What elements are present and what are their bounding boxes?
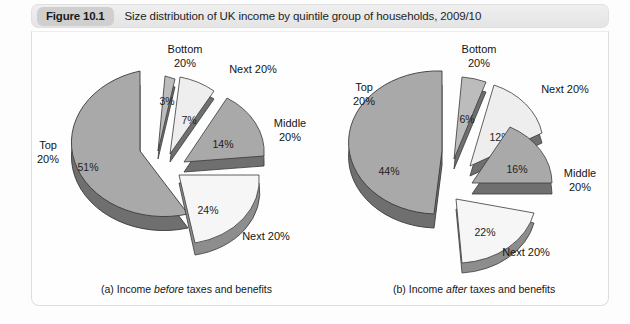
- label-middle-20-b-line2: 20%: [569, 181, 591, 193]
- label-bottom-20-b-line1: Bottom: [462, 43, 497, 55]
- pie-chart-after-taxes: 44% 6% 12% 16%: [312, 31, 630, 281]
- figure-header-bar: Figure 10.1 Size distribution of UK inco…: [31, 4, 609, 28]
- caption-b-emphasis: after: [446, 283, 467, 295]
- chart-caption-a: (a) Income before taxes and benefits: [101, 283, 272, 295]
- slice-next-20-lower-b: 22%: [456, 199, 534, 273]
- figure-number-badge: Figure 10.1: [37, 7, 114, 26]
- slice-value-bottom-20-b: 6%: [459, 113, 474, 125]
- label-next-20-upper-a: Next 20%: [229, 63, 277, 75]
- chart-caption-b: (b) Income after taxes and benefits: [393, 283, 555, 295]
- label-top-20-a-line2: 20%: [37, 153, 59, 165]
- caption-a-post: taxes and benefits: [184, 283, 272, 295]
- label-bottom-20-a-line1: Bottom: [168, 43, 203, 55]
- figure-panel: Figure 10.1 Size distribution of UK inco…: [0, 0, 630, 324]
- slice-value-middle-20-b: 16%: [506, 163, 527, 175]
- label-middle-20-b-line1: Middle: [564, 167, 596, 179]
- label-bottom-20-a-line2: 20%: [174, 57, 196, 69]
- page-bleed-text: [0, 314, 630, 324]
- label-top-20-a-line1: Top: [39, 139, 57, 151]
- slice-value-next-20-upper-a: 7%: [181, 114, 196, 126]
- caption-b-post: taxes and benefits: [467, 283, 555, 295]
- label-next-20-upper-b: Next 20%: [541, 83, 589, 95]
- slice-value-next-20-lower-a: 24%: [197, 204, 218, 216]
- caption-a-pre: (a) Income: [101, 283, 154, 295]
- label-top-20-b-line1: Top: [355, 81, 373, 93]
- caption-a-emphasis: before: [154, 283, 184, 295]
- slice-value-top-20-a: 51%: [77, 161, 98, 173]
- label-top-20-b-line2: 20%: [353, 95, 375, 107]
- pie-chart-before-taxes: 51% 3% 7% 14%: [18, 31, 318, 281]
- figure-title: Size distribution of UK income by quinti…: [125, 10, 482, 22]
- label-next-20-lower-a: Next 20%: [242, 230, 290, 242]
- label-bottom-20-b-line2: 20%: [468, 57, 490, 69]
- slice-next-20-lower-a: 24%: [179, 175, 260, 255]
- slice-value-bottom-20-a: 3%: [159, 95, 174, 107]
- caption-b-pre: (b) Income: [393, 283, 446, 295]
- label-middle-20-a-line2: 20%: [279, 131, 301, 143]
- charts-container: 51% 3% 7% 14%: [0, 31, 630, 306]
- label-next-20-lower-b: Next 20%: [502, 246, 550, 258]
- slice-value-next-20-lower-b: 22%: [474, 226, 495, 238]
- slice-value-top-20-b: 44%: [378, 165, 399, 177]
- slice-value-middle-20-a: 14%: [212, 138, 233, 150]
- label-middle-20-a-line1: Middle: [274, 117, 306, 129]
